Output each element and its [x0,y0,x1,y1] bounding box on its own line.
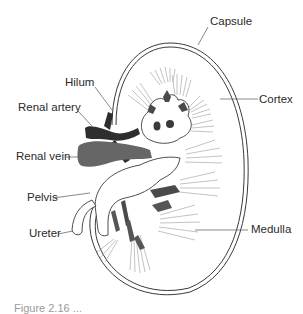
calyx-dot [166,120,174,128]
label-capsule: Capsule [210,16,252,28]
label-renal-artery: Renal artery [18,102,81,114]
figure-caption: Figure 2.16 ... [14,302,82,314]
label-pelvis: Pelvis [27,192,58,204]
calyx-dot [154,122,161,131]
ureter-shape [72,200,96,235]
label-medulla: Medulla [251,224,291,236]
label-ureter: Ureter [29,228,61,240]
label-cortex: Cortex [259,94,293,106]
label-renal-vein: Renal vein [16,151,70,163]
label-hilum: Hilum [65,77,94,89]
renal-vein-shape [77,141,152,167]
